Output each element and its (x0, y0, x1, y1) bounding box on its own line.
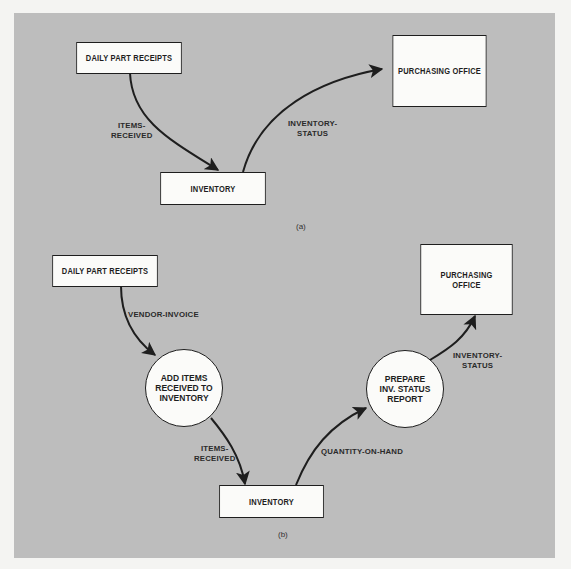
external-entity-daily-part-receipts-a: DAILY PART RECEIPTS (76, 42, 182, 74)
process-prepare-inv-status-report: PREPARE INV. STATUS REPORT (366, 350, 444, 428)
data-store-inventory-b: INVENTORY (219, 485, 324, 518)
external-entity-daily-part-receipts-b: DAILY PART RECEIPTS (52, 255, 158, 287)
caption-b: (b) (278, 530, 288, 539)
process-add-items-received: ADD ITEMS RECEIVED TO INVENTORY (145, 349, 223, 427)
caption-a: (a) (296, 222, 306, 231)
flow-label-inventory-status-a: INVENTORY- STATUS (288, 119, 337, 138)
flow-label-quantity-on-hand-b: QUANTITY-ON-HAND (321, 447, 403, 457)
node-label: ADD ITEMS RECEIVED TO INVENTORY (155, 373, 212, 403)
flow-label-inventory-status-b: INVENTORY- STATUS (453, 351, 502, 370)
flow-label-vendor-invoice-b: VENDOR-INVOICE (128, 310, 199, 320)
node-label: DAILY PART RECEIPTS (62, 266, 148, 276)
arrow-b-vendor-invoice (121, 286, 155, 355)
external-entity-purchasing-office-b: PURCHASING OFFICE (420, 244, 512, 315)
node-label: DAILY PART RECEIPTS (86, 53, 172, 63)
node-label: PURCHASING OFFICE (440, 270, 492, 290)
node-label: PURCHASING OFFICE (398, 66, 481, 76)
external-entity-purchasing-office-a: PURCHASING OFFICE (392, 35, 486, 107)
node-label: PREPARE INV. STATUS REPORT (380, 374, 431, 404)
flow-label-items-received-b: ITEMS- RECEIVED (194, 444, 235, 463)
data-store-inventory-a: INVENTORY (160, 172, 266, 205)
node-label: INVENTORY (249, 497, 294, 507)
flow-label-items-received-a: ITEMS- RECEIVED (111, 121, 152, 140)
node-label: INVENTORY (191, 184, 236, 194)
